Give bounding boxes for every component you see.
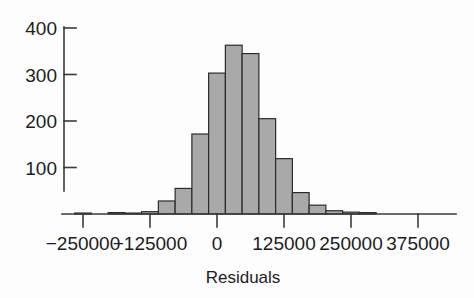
histogram-bar [175,188,192,214]
y-axis: 100200300400 [25,18,76,191]
histogram-chart: 100200300400 −250000−1250000125000250000… [0,0,474,298]
histogram-bar [259,119,276,214]
x-tick-label: 125000 [252,233,315,254]
x-tick-marks [83,214,418,227]
y-tick-label: 400 [25,18,57,39]
x-tick-label: −250000 [46,233,121,254]
histogram-bar [292,193,309,214]
y-tick-label: 300 [25,65,57,86]
bars-group [75,45,377,214]
x-tick-label: −125000 [113,233,188,254]
y-tick-label: 200 [25,111,57,132]
x-tick-label: 0 [212,233,223,254]
y-tick-marks [64,28,76,168]
histogram-bar [192,134,209,214]
x-tick-label: 375000 [386,233,449,254]
y-tick-label: 100 [25,158,57,179]
chart-canvas: 100200300400 −250000−1250000125000250000… [0,0,474,298]
x-axis-title: Residuals [206,268,281,287]
x-axis: −250000−1250000125000250000375000 [46,214,456,254]
histogram-bar [276,159,293,214]
histogram-bar [225,45,242,214]
y-tick-labels: 100200300400 [25,18,57,179]
histogram-bar [309,205,326,214]
histogram-bar [209,73,226,214]
x-tick-label: 250000 [319,233,382,254]
x-tick-labels: −250000−1250000125000250000375000 [46,233,450,254]
histogram-bar [158,201,175,214]
histogram-bar [242,54,259,214]
